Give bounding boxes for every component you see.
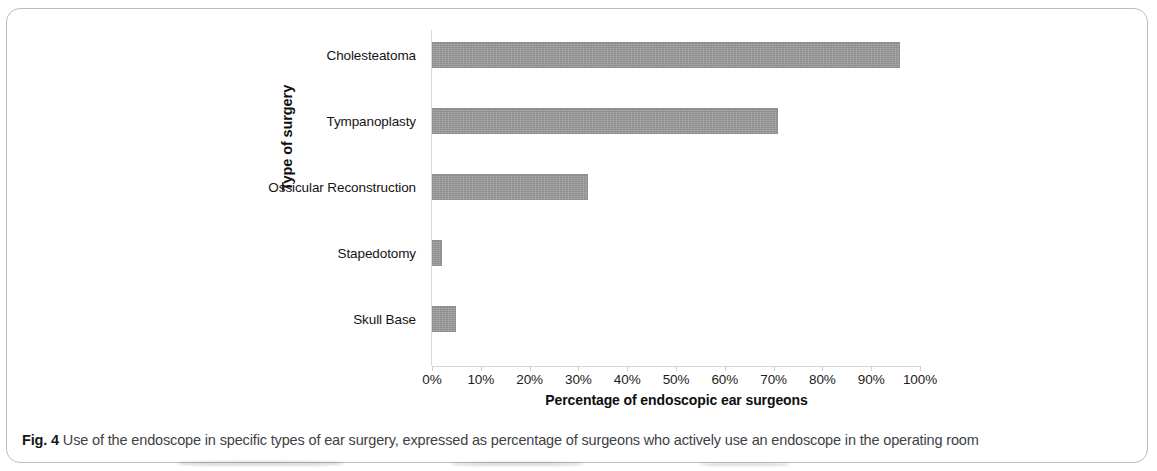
category-label: Tympanoplasty [0,108,424,134]
x-tick-label: 80% [809,372,836,387]
x-tick [627,366,628,371]
category-label: Ossicular Reconstruction [0,174,424,200]
category-label: Skull Base [0,306,424,332]
figure-root: 0%10%20%30%40%50%60%70%80%90%100% Choles… [0,0,1157,471]
category-label: Stapedotomy [0,240,424,266]
bar [432,42,900,68]
bar-row [432,174,920,200]
x-tick-label: 0% [422,372,441,387]
x-tick-label: 60% [711,372,738,387]
bar [432,240,442,266]
bar [432,108,778,134]
x-tick-label: 90% [858,372,885,387]
x-tick-label: 30% [565,372,592,387]
figure-caption-text: Use of the endoscope in specific types o… [59,432,979,448]
category-label: Cholesteatoma [0,42,424,68]
category-label-text: Skull Base [353,312,416,327]
category-label-text: Stapedotomy [338,246,416,261]
x-axis-title: Percentage of endoscopic ear surgeons [432,392,921,408]
bar-row [432,306,920,332]
x-tick [822,366,823,371]
x-tick-label: 100% [903,372,937,387]
x-tick-label: 40% [614,372,641,387]
category-label-text: Tympanoplasty [327,114,417,129]
bar [432,174,588,200]
scan-smudge [700,463,790,466]
bar-row [432,240,920,266]
x-tick [871,366,872,371]
x-tick [432,366,433,371]
x-tick [530,366,531,371]
y-axis-title: Type of surgery [279,63,295,213]
x-tick [481,366,482,371]
bar [432,306,456,332]
scan-smudge [178,461,343,466]
x-tick [725,366,726,371]
figure-caption: Fig. 4 Use of the endoscope in specific … [22,432,1142,448]
x-tick [774,366,775,371]
bar-row [432,42,920,68]
x-tick-label: 10% [467,372,494,387]
x-tick [578,366,579,371]
figure-caption-label: Fig. 4 [22,432,59,448]
scan-smudge [452,462,582,466]
x-tick [920,366,921,371]
x-tick [676,366,677,371]
bar-row [432,108,920,134]
x-tick-label: 50% [663,372,690,387]
category-label-text: Cholesteatoma [326,48,416,63]
x-tick-label: 70% [760,372,787,387]
x-tick-label: 20% [516,372,543,387]
